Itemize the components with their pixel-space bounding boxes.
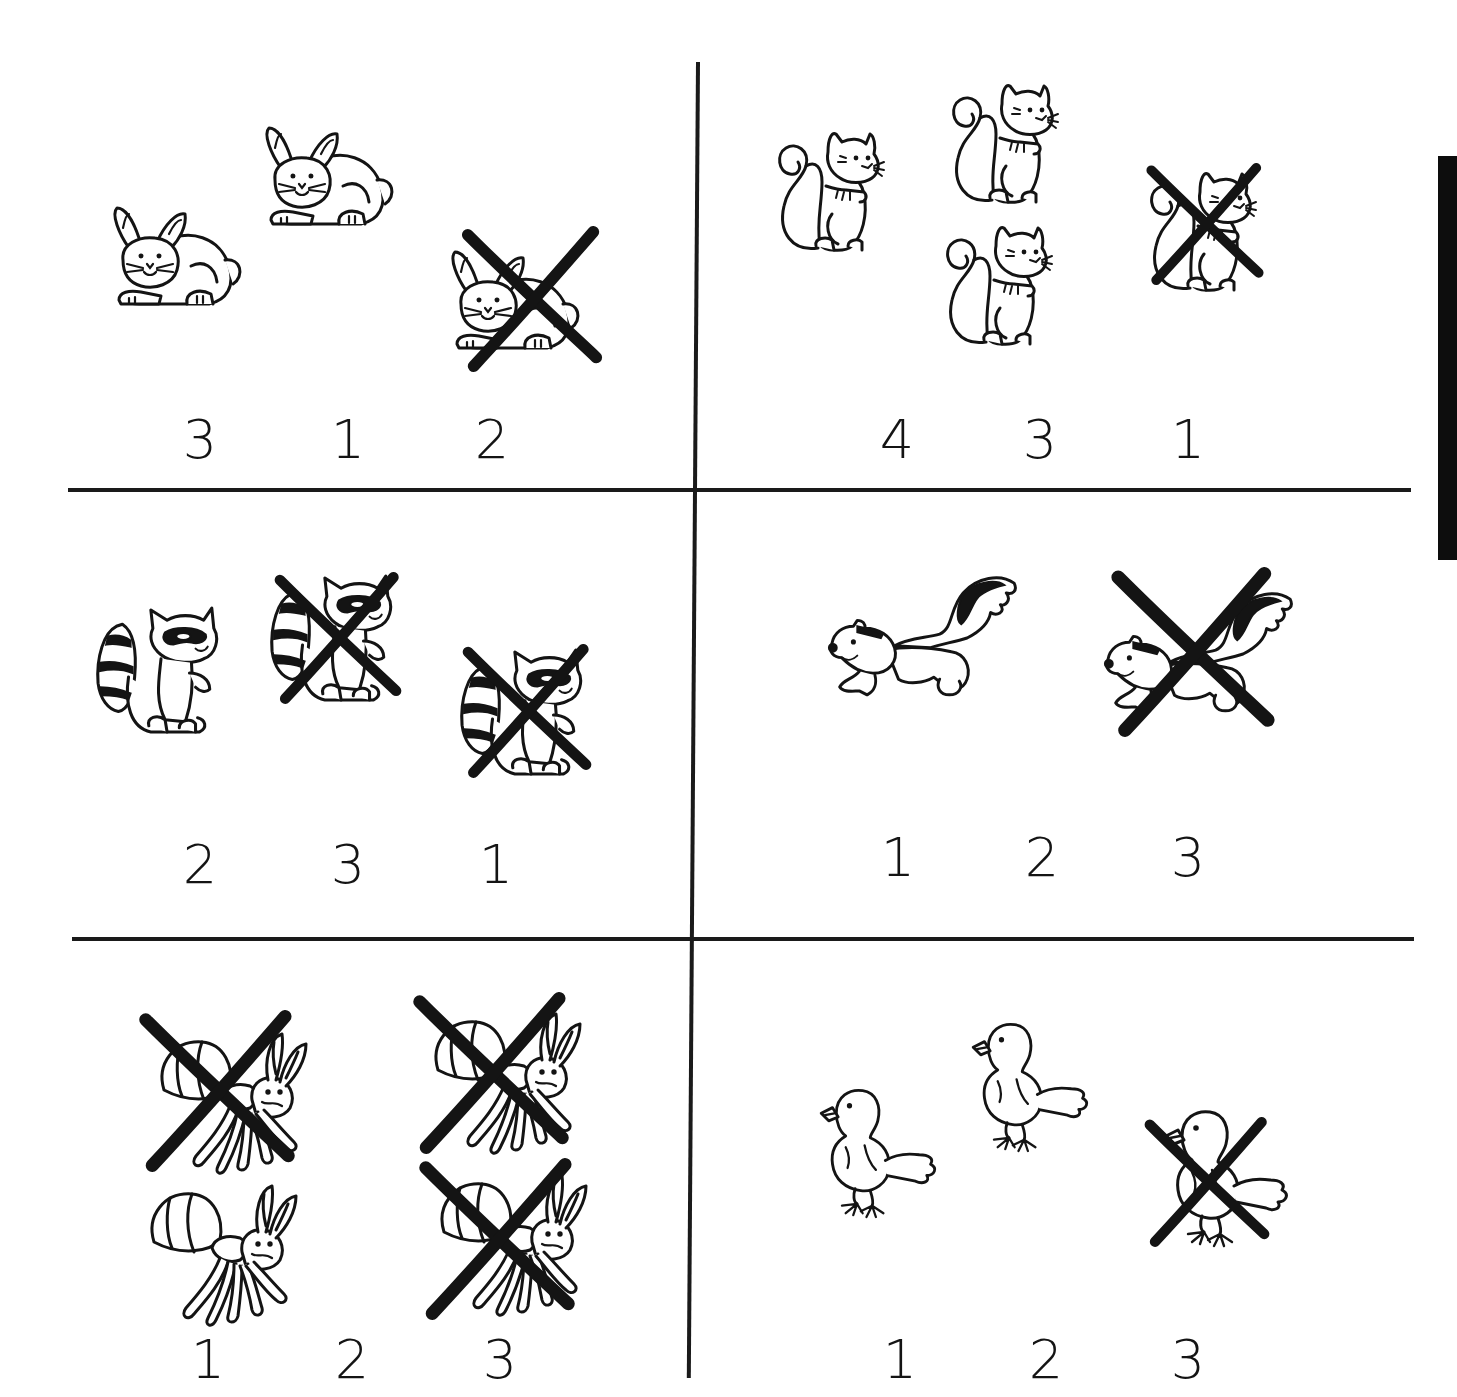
- answer-choice[interactable]: 2: [1025, 831, 1059, 885]
- raccoon-icon: [94, 606, 226, 738]
- page-edge-tab-bar: [1438, 156, 1457, 560]
- answer-choice[interactable]: 1: [479, 838, 513, 892]
- answer-choice[interactable]: 2: [1029, 1333, 1063, 1387]
- rabbit-icon: [98, 204, 250, 314]
- answer-choice[interactable]: 1: [883, 1333, 917, 1387]
- horizontal-divider-bottom: [72, 937, 1414, 941]
- ant-icon: [430, 1172, 590, 1322]
- answer-choice[interactable]: 1: [331, 413, 365, 467]
- answer-choice[interactable]: 3: [183, 413, 217, 467]
- answer-choice[interactable]: 3: [483, 1333, 517, 1387]
- chick-icon: [1152, 1092, 1292, 1260]
- answer-choice[interactable]: 2: [335, 1333, 369, 1387]
- answer-choice[interactable]: 3: [1171, 1333, 1205, 1387]
- squirrel-icon: [772, 128, 892, 258]
- ant-icon: [150, 1030, 310, 1180]
- squirrel-icon: [946, 80, 1066, 210]
- ant-icon: [424, 1010, 584, 1160]
- answer-choice[interactable]: 2: [183, 838, 217, 892]
- horizontal-divider-top: [68, 488, 1411, 492]
- squirrel-icon: [940, 222, 1060, 352]
- answer-choice[interactable]: 3: [1171, 831, 1205, 885]
- squirrel-icon: [1144, 168, 1264, 298]
- raccoon-icon: [458, 648, 590, 780]
- skunk-icon: [824, 556, 1020, 720]
- vertical-divider: [687, 62, 700, 1378]
- answer-choice[interactable]: 3: [331, 838, 365, 892]
- answer-choice[interactable]: 1: [881, 831, 915, 885]
- answer-choice[interactable]: 2: [475, 413, 509, 467]
- rabbit-icon: [436, 248, 588, 358]
- answer-choice[interactable]: 4: [880, 413, 914, 467]
- answer-choice[interactable]: 3: [1023, 413, 1057, 467]
- chick-icon: [960, 1004, 1092, 1166]
- ant-icon: [140, 1182, 300, 1332]
- raccoon-icon: [268, 574, 400, 706]
- answer-choice[interactable]: 1: [1171, 413, 1205, 467]
- answer-choice[interactable]: 1: [191, 1333, 225, 1387]
- skunk-icon: [1100, 572, 1296, 736]
- chick-icon: [808, 1070, 940, 1232]
- rabbit-icon: [250, 124, 402, 234]
